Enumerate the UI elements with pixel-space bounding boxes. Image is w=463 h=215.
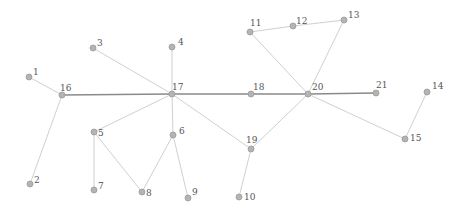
node-label-11: 11 [250,18,261,28]
node-label-6: 6 [179,126,185,136]
node-5[interactable] [91,129,97,135]
node-label-3: 3 [97,38,103,48]
node-4[interactable] [169,44,175,50]
node-1[interactable] [26,74,32,80]
network-graph: 123456789101112131415161718192021 [0,0,463,215]
edge-20-21 [308,93,376,94]
node-label-5: 5 [98,128,104,138]
node-label-7: 7 [98,181,104,191]
node-label-8: 8 [146,188,152,198]
node-label-18: 18 [253,82,265,92]
node-20[interactable] [305,91,311,97]
node-label-19: 19 [246,135,258,145]
node-label-9: 9 [192,187,198,197]
node-label-1: 1 [33,67,39,77]
node-label-15: 15 [410,133,422,143]
node-label-17: 17 [172,82,184,92]
node-label-20: 20 [312,82,324,92]
node-label-4: 4 [178,37,184,47]
node-label-14: 14 [432,81,444,91]
node-15[interactable] [402,136,408,142]
node-6[interactable] [170,132,176,138]
edge-16-17 [62,94,172,95]
node-13[interactable] [341,17,347,23]
node-7[interactable] [91,187,97,193]
node-2[interactable] [27,181,33,187]
node-8[interactable] [139,189,145,195]
node-label-16: 16 [60,83,72,93]
node-3[interactable] [90,45,96,51]
node-21[interactable] [373,90,379,96]
node-9[interactable] [185,195,191,201]
node-label-12: 12 [296,16,307,26]
node-14[interactable] [424,89,430,95]
node-10[interactable] [236,194,242,200]
graph-background [0,0,463,215]
node-19[interactable] [248,146,254,152]
node-label-13: 13 [348,10,360,20]
node-label-21: 21 [376,80,387,90]
node-label-2: 2 [34,175,40,185]
node-label-10: 10 [244,192,256,202]
node-11[interactable] [247,29,253,35]
